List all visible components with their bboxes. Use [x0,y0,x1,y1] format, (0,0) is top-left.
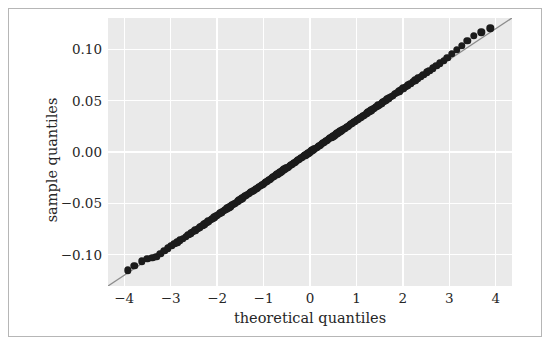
scatter-point [363,110,370,117]
scatter-point [289,160,296,167]
scatter-point [414,75,421,82]
scatter-point [242,192,249,199]
scatter-point [199,222,206,229]
scatter-point [314,143,321,150]
scatter-point [317,141,324,148]
scatter-point [271,172,278,179]
gridline-horizontal [108,151,512,152]
scatter-point [272,171,279,178]
scatter-point [478,29,485,36]
scatter-point [281,166,288,173]
scatter-point [397,86,404,93]
scatter-point [285,163,292,170]
scatter-point [404,81,411,88]
scatter-point [246,189,253,196]
scatter-point [284,164,291,171]
scatter-point [375,102,382,109]
scatter-point [185,231,192,238]
scatter-point [440,57,447,64]
scatter-point [324,136,331,143]
scatter-point [470,32,477,39]
scatter-point [371,104,378,111]
scatter-point [182,233,189,240]
scatter-point [203,219,210,226]
plot-panel [108,18,512,286]
scatter-point [207,216,214,223]
scatter-point [346,121,353,128]
scatter-point [325,135,332,142]
scatter-point [391,90,398,97]
scatter-point [200,220,207,227]
scatter-point [282,165,289,172]
x-tick-label: −4 [104,290,144,306]
chart-figure: −4−3−2−101234 −0.10−0.050.000.050.10 the… [0,0,552,346]
scatter-point [417,73,424,80]
scatter-point [173,239,180,246]
scatter-point [412,76,419,83]
scatter-point [433,62,440,69]
x-tick-label: 0 [290,290,330,306]
scatter-point [131,262,138,269]
scatter-point [209,215,216,222]
scatter-point [224,205,231,212]
scatter-point [251,186,258,193]
scatter-point [295,156,302,163]
scatter-point [345,122,352,129]
scatter-point [334,130,341,137]
scatter-point [299,153,306,160]
scatter-point [389,92,396,99]
scatter-point [327,134,334,141]
scatter-point [321,138,328,145]
scatter-point [297,154,304,161]
scatter-point [358,113,365,120]
x-tick-label: 3 [429,290,469,306]
scatter-point [364,109,371,116]
scatter-point [138,258,145,265]
scatter-point [464,37,471,44]
scatter-point [274,170,281,177]
scatter-point [124,267,131,274]
scatter-point [264,177,271,184]
scatter-point [265,176,272,183]
scatter-point [222,206,229,213]
scatter-point [288,161,295,168]
scatter-point [240,193,247,200]
gridline-horizontal [108,254,512,255]
x-axis-title: theoretical quantiles [108,310,512,326]
scatter-point [179,235,186,242]
scatter-point [176,237,183,244]
scatter-point [278,168,285,175]
scatter-point [323,137,330,144]
scatter-point [361,111,368,118]
scatter-point [360,112,367,119]
scatter-point [296,155,303,162]
scatter-point [436,60,443,67]
scatter-point [338,127,345,134]
scatter-point [293,157,300,164]
scatter-point [444,54,451,61]
scatter-point [366,108,373,115]
scatter-point [423,69,430,76]
scatter-point [420,71,427,78]
scatter-point [328,133,335,140]
scatter-point [356,114,363,121]
scatter-point [336,128,343,135]
scatter-point [254,184,261,191]
scatter-point [189,228,196,235]
scatter-point [267,175,274,182]
scatter-point [192,227,199,234]
scatter-point [238,195,245,202]
scatter-point [292,158,299,165]
scatter-point [369,105,376,112]
scatter-point [486,25,493,32]
scatter-point [245,190,252,197]
y-axis-title: sample quantiles [44,26,60,294]
scatter-point [248,188,255,195]
scatter-point [426,67,433,74]
scatter-point [316,142,323,149]
scatter-point [409,78,416,85]
scatter-point [343,123,350,130]
scatter-point [268,174,275,181]
scatter-point [335,129,342,136]
x-tick-label: −1 [244,290,284,306]
